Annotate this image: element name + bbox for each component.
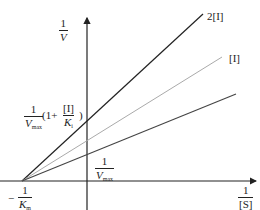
y-axis-label-num: 1 bbox=[60, 18, 68, 30]
inhibited-vmax-den-sub: max bbox=[32, 124, 42, 130]
inhibitor-num: [I] bbox=[62, 103, 75, 115]
y-intercept-den: Vmax bbox=[95, 168, 114, 182]
x-intercept-label: 1 Km bbox=[18, 185, 32, 210]
ki-den-sub: i bbox=[71, 123, 73, 129]
y-intercept-den-text: V bbox=[96, 169, 103, 181]
line-no-inhibitor bbox=[22, 94, 236, 181]
y-intercept-num: 1 bbox=[101, 156, 109, 168]
line-label-i: [I] bbox=[229, 53, 240, 64]
x-intercept-num: 1 bbox=[21, 185, 29, 197]
inhibited-vmax-num: 1 bbox=[30, 104, 38, 116]
inhibited-vmax-den: Vmax bbox=[24, 116, 43, 130]
inhibitor-ki-fraction: [I] Ki bbox=[62, 103, 75, 129]
x-axis-label-num: 1 bbox=[242, 185, 250, 197]
inhibited-close-paren: ) bbox=[79, 110, 83, 121]
x-axis-label: 1 [S] bbox=[238, 185, 253, 210]
x-intercept-den-sub: m bbox=[26, 205, 31, 210]
x-intercept-den: Km bbox=[18, 197, 32, 210]
y-intercept-den-sub: max bbox=[103, 176, 113, 182]
ki-den: Ki bbox=[63, 115, 74, 129]
y-intercept-label: 1 Vmax bbox=[95, 156, 114, 182]
inhibited-open-paren: (1+ bbox=[42, 110, 57, 121]
inhibited-vmax-den-text: V bbox=[25, 117, 32, 129]
y-axis-label: 1 V bbox=[59, 18, 68, 43]
line-label-2i: 2[I] bbox=[207, 11, 224, 22]
x-axis-label-den: [S] bbox=[238, 197, 253, 210]
inhibited-vmax-fraction: 1 Vmax bbox=[24, 104, 43, 130]
x-intercept-sign: − bbox=[8, 193, 14, 204]
y-axis-label-den: V bbox=[59, 30, 68, 43]
